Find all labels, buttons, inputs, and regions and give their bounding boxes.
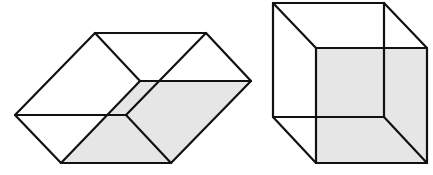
right-cube-edge <box>273 3 316 48</box>
left-cube-figure <box>15 33 251 163</box>
right-cube-edge <box>273 117 316 163</box>
left-cube-shaded-face <box>61 81 251 163</box>
right-cube-figure <box>273 3 427 163</box>
diagram-canvas <box>0 0 433 175</box>
right-cube-edge <box>384 3 427 48</box>
left-cube-edge <box>95 33 140 81</box>
